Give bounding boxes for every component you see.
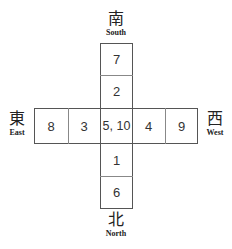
cell-center: 5, 10: [100, 108, 133, 144]
south-chinese-label: 南: [96, 10, 136, 28]
cell-south-outer: 7: [100, 43, 133, 75]
cell-east-inner: 3: [68, 108, 100, 144]
cell-west-inner: 4: [132, 108, 165, 144]
direction-south-label: 南 South: [96, 10, 136, 38]
direction-north-label: 北 North: [96, 211, 136, 239]
cell-north-outer: 6: [100, 176, 133, 209]
east-english-label: East: [4, 128, 30, 138]
north-english-label: North: [96, 229, 136, 239]
direction-east-label: 東 East: [4, 110, 30, 138]
west-chinese-label: 西: [200, 110, 230, 128]
cell-south-inner: 2: [100, 75, 133, 108]
cell-west-outer: 9: [165, 108, 198, 144]
cell-north-inner: 1: [100, 144, 133, 176]
cell-east-outer: 8: [34, 108, 68, 144]
north-chinese-label: 北: [96, 211, 136, 229]
direction-west-label: 西 West: [200, 110, 230, 138]
east-chinese-label: 東: [4, 110, 30, 128]
west-english-label: West: [200, 128, 230, 138]
south-english-label: South: [96, 28, 136, 38]
